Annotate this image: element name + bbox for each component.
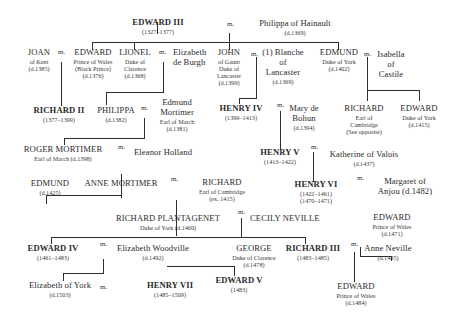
descent-line [64, 138, 145, 139]
descent-line [106, 92, 107, 105]
descent-line [354, 252, 355, 282]
person-henry-v: HENRY V (1413–1422) [252, 148, 308, 165]
person-edward-iii: EDWARD III (1327–1377) [122, 18, 194, 35]
marriage-marker: m. [141, 104, 148, 112]
descent-line [367, 57, 368, 101]
person-philippa-of-hainault: Philippa of Hainault (d.1369) [240, 19, 350, 36]
descent-line [163, 62, 164, 92]
person-edmund-mortimer: Edmund Mortimer Earl of March (d.1381) [152, 98, 202, 132]
person-philippa: PHILIPPA (d.1382) [94, 106, 138, 123]
descent-line [313, 152, 314, 182]
marriage-marker: m. [227, 20, 234, 28]
descent-line [419, 90, 420, 101]
person-edward-iv: EDWARD IV (1461–1483) [24, 244, 82, 261]
person-isabella-of-castile: Isabella of Castile [373, 50, 409, 80]
marriage-marker: m. [364, 50, 371, 58]
person-elizabeth-woodville: Elizabeth Woodville (d.1492) [112, 244, 194, 261]
person-richard-ii: RICHARD II (1377–1399) [28, 106, 90, 123]
person-henry-vii: HENRY VII (1485–1509) [140, 281, 200, 298]
person-blanche-of-lancaster: (1) Blanche of Lancaster (d.1369) [258, 48, 308, 85]
person-edmund-mortimer-d1425: EDMUND (d.1425) [30, 179, 70, 196]
person-katherine-of-valois: Katherine of Valois (d.1437) [322, 150, 406, 167]
marriage-marker: m. [159, 48, 166, 56]
person-edward-prince-of-wales-1484: EDWARD Prince of Wales (d.1484) [328, 282, 384, 306]
descent-line [367, 90, 420, 91]
descent-line [63, 273, 104, 274]
marriage-marker: m. [238, 208, 245, 216]
descent-line [51, 237, 306, 238]
marriage-marker: m. [171, 175, 178, 183]
person-anne-mortimer: ANNE MORTIMER [80, 179, 162, 189]
person-richard-earl-of-cambridge-ref: RICHARD Earl of Cambridge (See opposite) [339, 104, 389, 135]
descent-line [103, 259, 104, 274]
person-henry-vi: HENRY VI (1422–1461) (1470–1471) [286, 180, 346, 204]
marriage-marker: m. [351, 240, 358, 248]
person-joan-of-kent: JOAN of Kent (d.1385) [22, 48, 56, 72]
descent-line [92, 42, 339, 43]
person-edmund-duke-of-york: EDMUND Duke of York (d.1402) [314, 48, 364, 72]
person-roger-mortimer: ROGER MORTIMER Earl of March (d.1398) [18, 145, 108, 162]
person-richard-earl-of-cambridge: RICHARD Earl of Cambridge (ex. 1415) [190, 178, 254, 202]
person-edward-v: EDWARD V (1483) [212, 276, 266, 293]
person-eleanor-holland: Eleanor Holland [134, 148, 204, 158]
descent-line [106, 92, 164, 93]
marriage-marker: m. [100, 283, 107, 291]
person-richard-plantagenet: RICHARD PLANTAGENET Duke of York (d.1460… [112, 214, 224, 231]
person-edward-prince-of-wales-1471: EDWARD Prince of Wales (d.1471) [364, 213, 420, 237]
marriage-marker: m. [100, 240, 107, 248]
descent-line [144, 118, 145, 139]
person-cecily-neville: CECILY NEVILLE [250, 214, 340, 224]
marriage-marker: m. [277, 101, 284, 109]
marriage-marker: m. [118, 143, 125, 151]
marriage-marker: m. [311, 143, 318, 151]
person-edward-black-prince: EDWARD Prince of Wales (Black Prince) (d… [70, 48, 116, 79]
person-elizabeth-of-york: Elizabeth of York (d.1503) [28, 281, 92, 298]
person-anne-neville: Anne Neville (d.1485) [360, 244, 416, 261]
person-edward-duke-of-york: EDWARD Duke of York (d.1415) [393, 104, 445, 128]
person-richard-iii: RICHARD III (1483–1485) [282, 244, 344, 261]
person-mary-de-bohun: Mary de Bohun (d.1394) [287, 104, 321, 131]
descent-line [280, 111, 281, 149]
marriage-marker: m. [58, 48, 65, 56]
descent-line [239, 98, 257, 99]
person-lionel: LIONEL Duke of Clarence (d.1368) [118, 48, 152, 79]
person-henry-iv: HENRY IV (1399–1413) [214, 104, 268, 121]
descent-line [61, 62, 62, 106]
person-elizabeth-de-burgh: Elizabeth de Burgh [173, 48, 213, 68]
person-margaret-of-anjou: Margaret of Anjou (d.1482) [375, 177, 435, 197]
descent-line [46, 195, 47, 204]
person-john-of-gaunt: JOHN of Gaunt Duke of Lancaster (d.1399) [212, 48, 246, 86]
descent-line [241, 218, 242, 237]
person-george-duke-of-clarence: GEORGE Duke of Clarence (d.1478) [222, 244, 286, 268]
marriage-marker: m. [357, 174, 364, 182]
